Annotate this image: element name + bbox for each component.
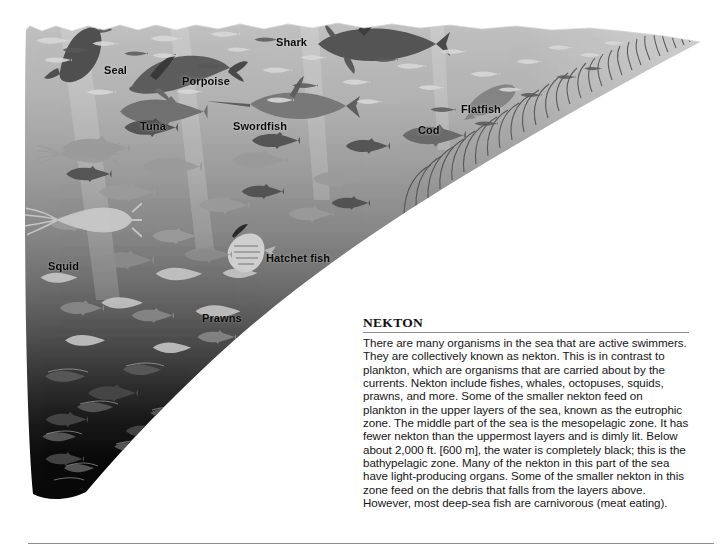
caption-heading: NEKTON xyxy=(363,315,689,330)
label-porpoise: Porpoise xyxy=(182,75,230,87)
label-shark: Shark xyxy=(276,36,307,48)
caption-divider xyxy=(363,332,689,333)
label-hatchet-fish: Hatchet fish xyxy=(266,252,330,264)
label-seal: Seal xyxy=(104,64,127,76)
label-swordfish: Swordfish xyxy=(233,120,287,132)
caption-panel: NEKTON There are many organisms in the s… xyxy=(363,315,689,509)
label-tuna: Tuna xyxy=(140,120,166,132)
caption-body-text: There are many organisms in the sea that… xyxy=(363,336,689,509)
label-cod: Cod xyxy=(418,124,440,136)
footer-divider xyxy=(28,543,714,544)
label-flatfish: Flatfish xyxy=(461,103,501,115)
label-squid: Squid xyxy=(48,260,79,272)
label-prawns: Prawns xyxy=(202,312,242,324)
figure-page: Seal Shark Porpoise Flatfish Tuna Swordf… xyxy=(0,0,728,556)
